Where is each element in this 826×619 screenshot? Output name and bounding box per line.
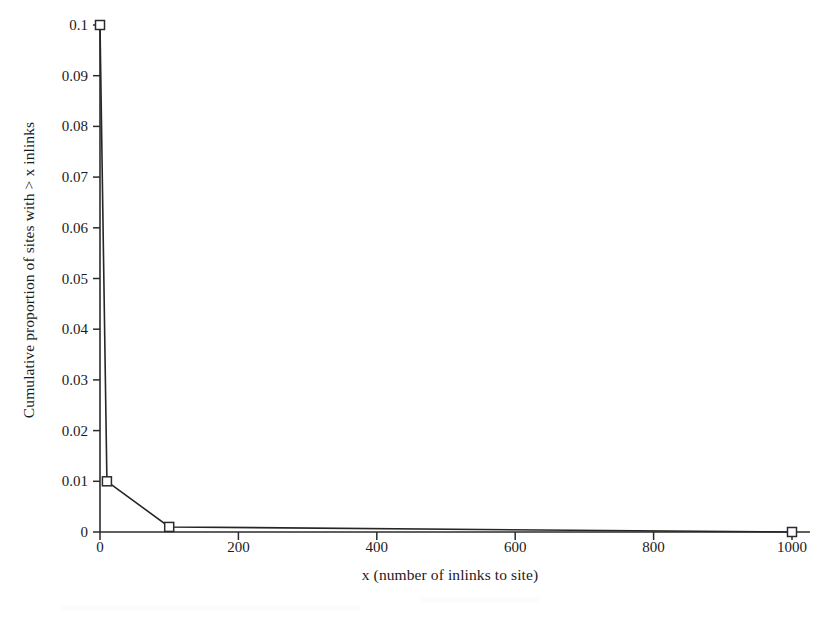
data-markers bbox=[96, 21, 797, 537]
data-series bbox=[100, 25, 792, 532]
chart-figure: Cumulative proportion of sites with > x … bbox=[0, 0, 826, 619]
data-point-marker bbox=[165, 522, 174, 531]
axis-spines bbox=[100, 25, 810, 532]
data-point-marker bbox=[102, 477, 111, 486]
data-point-marker bbox=[788, 528, 797, 537]
series-line bbox=[100, 25, 792, 532]
plot-area bbox=[0, 0, 826, 619]
scan-artifact bbox=[420, 597, 540, 602]
data-point-marker bbox=[96, 21, 105, 30]
tick-marks bbox=[93, 25, 792, 540]
scan-artifact bbox=[60, 606, 360, 610]
